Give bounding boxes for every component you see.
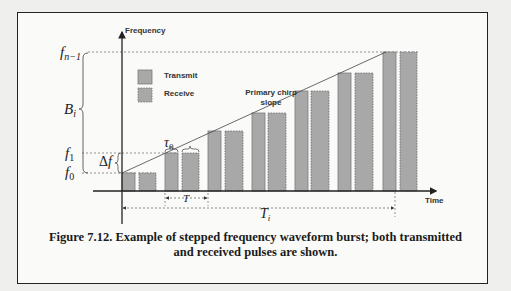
tau0-brace-receive xyxy=(182,146,199,152)
legend-transmit-label: Transmit xyxy=(164,71,197,80)
svg-text:T: T xyxy=(183,192,190,204)
svg-text:f1: f1 xyxy=(65,145,74,163)
svg-text:fn−1: fn−1 xyxy=(60,44,81,62)
legend-receive-label: Receive xyxy=(164,89,194,98)
delta-f-brace xyxy=(115,153,121,173)
legend-transmit-swatch xyxy=(138,70,152,84)
bandwidth-brace xyxy=(79,53,88,173)
svg-text:Ti: Ti xyxy=(260,206,271,223)
slope-label-line2: slope xyxy=(236,98,306,108)
figure-caption-line2: and received pulses are shown. xyxy=(0,245,511,260)
y-axis-label: Frequency xyxy=(125,26,165,35)
legend-receive-swatch xyxy=(138,88,152,102)
svg-text:f0: f0 xyxy=(65,164,74,182)
svg-text:τ0: τ0 xyxy=(164,135,174,152)
svg-text:Δf: Δf xyxy=(99,154,114,169)
slope-label: Primary chirp slope xyxy=(236,88,306,108)
x-axis-label: Time xyxy=(425,196,444,205)
figure-caption-line1: Figure 7.12. Example of stepped frequenc… xyxy=(0,230,511,245)
svg-text:Bi: Bi xyxy=(64,101,76,119)
slope-label-line1: Primary chirp xyxy=(236,88,306,98)
